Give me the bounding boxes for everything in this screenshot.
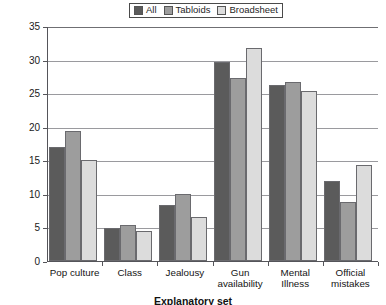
bar-group [324,27,372,261]
bar-group [214,27,262,261]
legend-label-tabloids: Tabloids [176,5,211,15]
y-axis-tick-label: 20 [18,123,40,133]
bar [81,160,97,261]
x-axis-tick-mark [378,262,379,266]
bar-group [104,27,152,261]
y-axis-tick-label: 15 [18,156,40,166]
legend-entry-all: All [134,5,157,15]
x-axis-tick-mark [102,262,103,266]
legend-label-broadsheet: Broadsheet [229,5,278,15]
x-axis-tick-mark [157,262,158,266]
x-axis-tick-mark [213,262,214,266]
legend-swatch-all [134,6,143,15]
bar [104,228,120,261]
bar [269,85,285,261]
bar [49,147,65,261]
x-axis-tick-label: Pop culture [47,267,102,278]
bar-group [49,27,97,261]
y-axis-tick-label: 5 [18,223,40,233]
y-axis-tick-mark [43,262,47,263]
bar [136,231,152,261]
bar [340,202,356,261]
bar-chart: All Tabloids Broadsheet Paragraphs (%) 0… [0,0,386,305]
bar-group [269,27,317,261]
x-axis-tick-label: Gun availability [213,267,268,289]
legend-label-all: All [146,5,157,15]
bar [159,205,175,261]
bar [65,131,81,261]
bar [230,78,246,261]
bar [246,48,262,262]
chart-legend: All Tabloids Broadsheet [129,3,283,18]
legend-entry-broadsheet: Broadsheet [217,5,278,15]
bar [120,225,136,261]
x-axis-title: Explanatory set [0,295,386,305]
plot-area [47,27,378,262]
x-axis-tick-label: Class [102,267,157,278]
x-axis-tick-mark [268,262,269,266]
x-axis-tick-label: Official mistakes [323,267,378,289]
y-axis-tick-label: 30 [18,56,40,66]
bar [301,91,317,261]
bar [356,165,372,261]
bar [214,62,230,261]
y-axis-tick-label: 25 [18,89,40,99]
y-axis-tick-label: 35 [18,22,40,32]
x-axis-tick-label: Mental Illness [268,267,323,289]
bar [324,181,340,261]
bar-group [159,27,207,261]
legend-swatch-broadsheet [217,6,226,15]
bar [191,217,207,261]
legend-swatch-tabloids [164,6,173,15]
x-axis-tick-mark [323,262,324,266]
x-axis-tick-label: Jealousy [157,267,212,278]
legend-entry-tabloids: Tabloids [164,5,211,15]
y-axis-tick-label: 10 [18,190,40,200]
bar [285,82,301,261]
bar [175,194,191,261]
y-axis-tick-label: 0 [18,257,40,267]
